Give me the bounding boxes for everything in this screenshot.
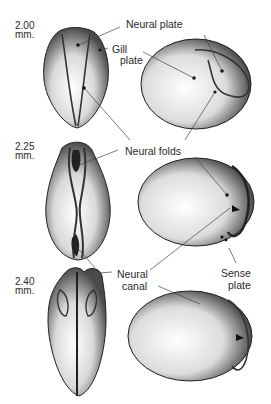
embryo-stage1-dorsal bbox=[44, 28, 109, 129]
label-sense-plate-line2: plate bbox=[228, 280, 251, 291]
stage-label-2: 2.25 mm. bbox=[15, 142, 34, 160]
label-sense-plate-line1: Sense bbox=[221, 268, 251, 279]
embryo-stage3-dorsal bbox=[48, 268, 106, 396]
stage-label-1: 2.00 mm. bbox=[15, 21, 34, 39]
label-neural-canal-line2: canal bbox=[122, 281, 147, 292]
embryo-stage3-lateral bbox=[128, 291, 252, 381]
stage-unit-1: mm. bbox=[15, 30, 34, 39]
embryo-stage1-lateral bbox=[141, 39, 251, 129]
label-neural-folds: Neural folds bbox=[125, 146, 181, 157]
label-neural-canal-line1: Neural bbox=[117, 269, 148, 280]
stage-unit-3: mm. bbox=[15, 286, 34, 295]
embryo-stage2-dorsal bbox=[46, 142, 110, 260]
embryo-stage2-lateral bbox=[138, 158, 254, 246]
stage-label-3: 2.40 mm. bbox=[15, 277, 34, 295]
stage-unit-2: mm. bbox=[15, 151, 34, 160]
label-neural-plate: Neural plate bbox=[126, 19, 183, 30]
label-gill-plate-line2: plate bbox=[120, 55, 143, 66]
